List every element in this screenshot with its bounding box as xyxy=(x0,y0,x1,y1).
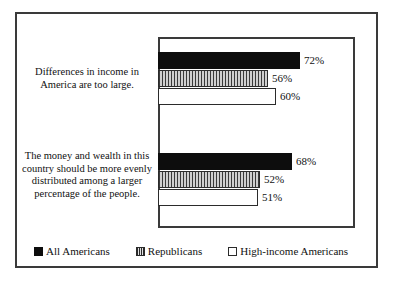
legend-label-all-americans: All Americans xyxy=(46,245,110,257)
legend-item-high-income-americans: High-income Americans xyxy=(228,245,348,257)
bar-group1-all-americans xyxy=(158,52,300,69)
bar-value-group1-all-americans: 72% xyxy=(304,52,324,69)
legend-label-republicans: Republicans xyxy=(148,245,202,257)
chart-figure: Differences in income in America are too… xyxy=(0,0,395,282)
bar-value-group1-republicans: 56% xyxy=(272,70,292,87)
bar-group1-high-income-americans xyxy=(158,88,276,105)
legend-label-high-income-americans: High-income Americans xyxy=(240,245,348,257)
category-label-income-differences: Differences in income in America are too… xyxy=(20,66,154,91)
bar-value-group2-high-income-americans: 51% xyxy=(262,189,282,206)
legend-swatch-all-americans xyxy=(34,247,43,256)
legend-item-republicans: Republicans xyxy=(136,245,202,257)
bar-group2-republicans xyxy=(158,171,260,188)
legend-swatch-republicans xyxy=(136,247,145,256)
legend-item-all-americans: All Americans xyxy=(34,245,110,257)
legend-swatch-high-income-americans xyxy=(228,247,237,256)
bar-value-group2-all-americans: 68% xyxy=(296,153,316,170)
chart-legend: All Americans Republicans High-income Am… xyxy=(22,242,372,260)
bar-group2-high-income-americans xyxy=(158,189,258,206)
bar-value-group1-high-income-americans: 60% xyxy=(280,88,300,105)
bar-group2-all-americans xyxy=(158,153,292,170)
bar-group1-republicans xyxy=(158,70,268,87)
bar-value-group2-republicans: 52% xyxy=(264,171,284,188)
category-label-wealth-distribution: The money and wealth in this country sho… xyxy=(20,150,154,200)
